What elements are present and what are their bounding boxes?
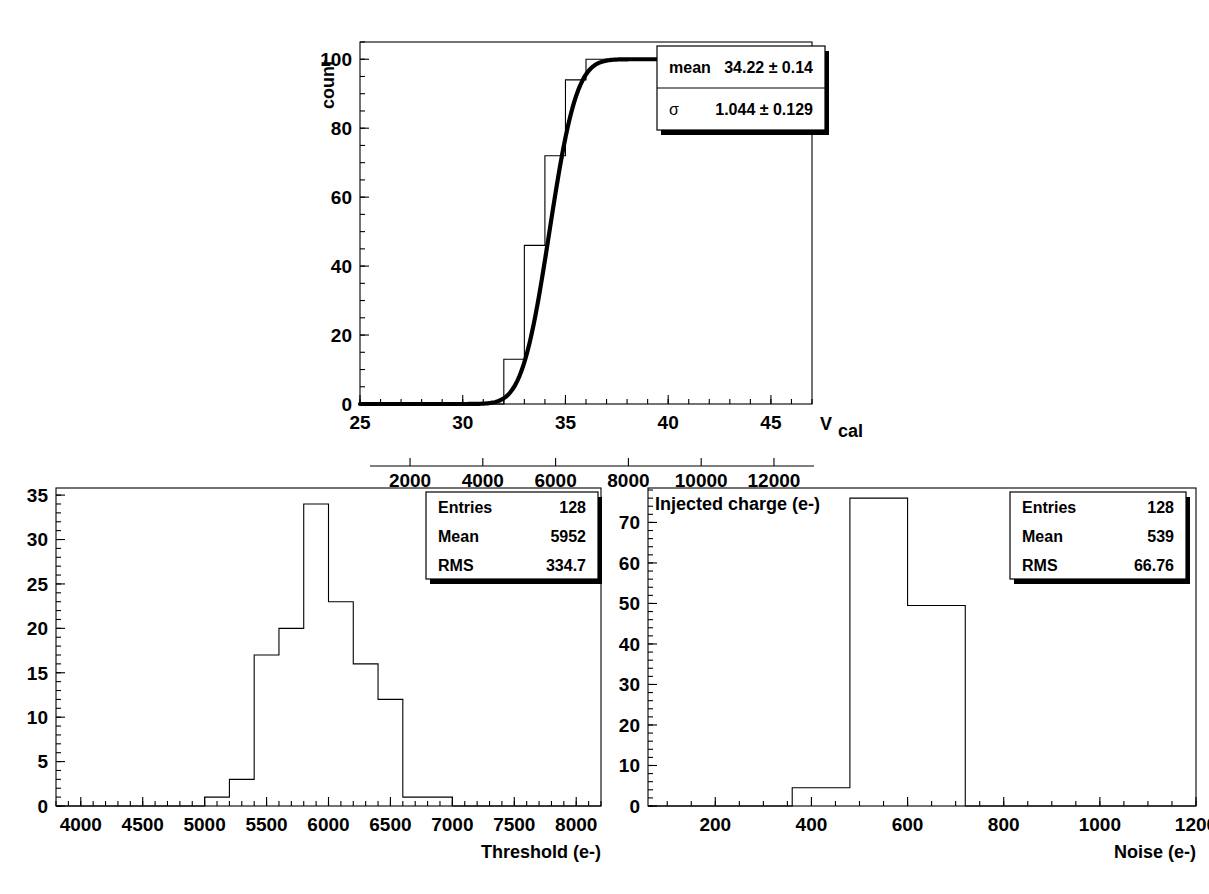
svg-text:334.7: 334.7 <box>546 557 586 574</box>
svg-text:Mean: Mean <box>1022 528 1063 545</box>
svg-text:35: 35 <box>555 412 577 433</box>
svg-text:35: 35 <box>27 485 49 506</box>
svg-text:0: 0 <box>629 796 640 817</box>
figure-root: 2530354045020406080100countVcal200040006… <box>0 0 1209 894</box>
svg-text:45: 45 <box>760 412 782 433</box>
svg-text:25: 25 <box>349 412 371 433</box>
scurve-y-axis-title: count <box>318 60 338 109</box>
svg-text:1200: 1200 <box>1175 814 1209 835</box>
svg-text:5000: 5000 <box>183 814 225 835</box>
svg-text:6500: 6500 <box>369 814 411 835</box>
noise-x-axis-title: Noise (e-) <box>1114 842 1196 862</box>
panel-threshold-histogram: 4000450050005500600065007000750080000510… <box>8 478 618 886</box>
svg-text:7000: 7000 <box>431 814 473 835</box>
svg-text:800: 800 <box>988 814 1020 835</box>
svg-text:60: 60 <box>619 553 640 574</box>
panel-noise-histogram: 20040060080010001200010203040506070Noise… <box>600 478 1205 886</box>
threshold-x-axis-title: Threshold (e-) <box>481 842 601 862</box>
svg-text:80: 80 <box>331 118 352 139</box>
svg-text:25: 25 <box>27 574 49 595</box>
svg-text:0: 0 <box>37 796 48 817</box>
svg-text:5952: 5952 <box>550 528 586 545</box>
svg-text:10: 10 <box>619 755 640 776</box>
svg-text:20: 20 <box>27 618 48 639</box>
svg-text:60: 60 <box>331 187 352 208</box>
svg-text:Entries: Entries <box>1022 499 1076 516</box>
svg-text:34.22 ± 0.14: 34.22 ± 0.14 <box>724 59 813 76</box>
svg-text:539: 539 <box>1147 528 1174 545</box>
svg-text:4000: 4000 <box>60 814 102 835</box>
svg-text:8000: 8000 <box>555 814 597 835</box>
svg-text:20: 20 <box>619 715 640 736</box>
scurve-x-axis-title-sub: cal <box>838 421 863 441</box>
svg-text:400: 400 <box>796 814 828 835</box>
svg-text:RMS: RMS <box>438 557 474 574</box>
svg-text:30: 30 <box>619 674 640 695</box>
svg-text:5: 5 <box>37 751 48 772</box>
svg-text:1000: 1000 <box>1079 814 1121 835</box>
svg-text:10: 10 <box>27 707 48 728</box>
svg-text:1.044 ± 0.129: 1.044 ± 0.129 <box>715 101 813 118</box>
svg-text:128: 128 <box>1147 499 1174 516</box>
svg-text:6000: 6000 <box>307 814 349 835</box>
svg-text:66.76: 66.76 <box>1134 557 1174 574</box>
svg-text:30: 30 <box>452 412 473 433</box>
svg-text:30: 30 <box>27 529 48 550</box>
threshold-chart: 4000450050005500600065007000750080000510… <box>8 478 618 886</box>
scurve-chart: 2530354045020406080100countVcal200040006… <box>312 28 872 478</box>
svg-text:4500: 4500 <box>122 814 164 835</box>
panel-scurve-plot: 2530354045020406080100countVcal200040006… <box>312 28 872 478</box>
svg-text:200: 200 <box>699 814 731 835</box>
svg-text:0: 0 <box>341 394 352 415</box>
svg-text:mean: mean <box>669 59 711 76</box>
svg-text:5500: 5500 <box>245 814 287 835</box>
svg-text:15: 15 <box>27 663 49 684</box>
scurve-x-axis-title: V <box>820 414 832 434</box>
svg-text:50: 50 <box>619 593 640 614</box>
svg-text:7500: 7500 <box>493 814 535 835</box>
svg-text:128: 128 <box>559 499 586 516</box>
svg-text:20: 20 <box>331 325 352 346</box>
svg-text:600: 600 <box>892 814 924 835</box>
svg-text:40: 40 <box>331 256 352 277</box>
svg-text:40: 40 <box>619 634 640 655</box>
noise-chart: 20040060080010001200010203040506070Noise… <box>600 478 1205 886</box>
svg-text:Mean: Mean <box>438 528 479 545</box>
svg-text:σ: σ <box>669 101 679 118</box>
svg-text:40: 40 <box>658 412 679 433</box>
svg-text:Entries: Entries <box>438 499 492 516</box>
svg-text:70: 70 <box>619 512 640 533</box>
svg-text:RMS: RMS <box>1022 557 1058 574</box>
